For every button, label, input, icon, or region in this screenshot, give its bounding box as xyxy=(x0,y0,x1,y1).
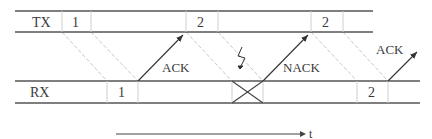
time-axis: t xyxy=(116,127,313,139)
tx-packet-2: 2 xyxy=(197,15,204,30)
tx-lane: TX 1 2 2 xyxy=(15,11,373,32)
tx-packet-1: 1 xyxy=(72,15,79,30)
lost-packet-cross-icon xyxy=(232,81,263,103)
rx-label: RX xyxy=(30,85,49,100)
ack-label-1: ACK xyxy=(162,60,190,75)
time-axis-label: t xyxy=(309,127,313,139)
rx-lane: RX 1 2 xyxy=(15,81,420,103)
harq-timing-diagram: TX 1 2 2 RX 1 2 ACK NACK ACK xyxy=(0,0,432,139)
propagation-guides xyxy=(62,32,388,81)
lightning-bolt-icon xyxy=(238,47,245,69)
ack-label-2: ACK xyxy=(376,42,404,57)
nack-label: NACK xyxy=(283,60,320,75)
tx-packet-2-retransmit: 2 xyxy=(322,15,329,30)
rx-packet-2: 2 xyxy=(368,85,375,100)
rx-packet-1: 1 xyxy=(118,85,125,100)
tx-label: TX xyxy=(32,15,51,30)
